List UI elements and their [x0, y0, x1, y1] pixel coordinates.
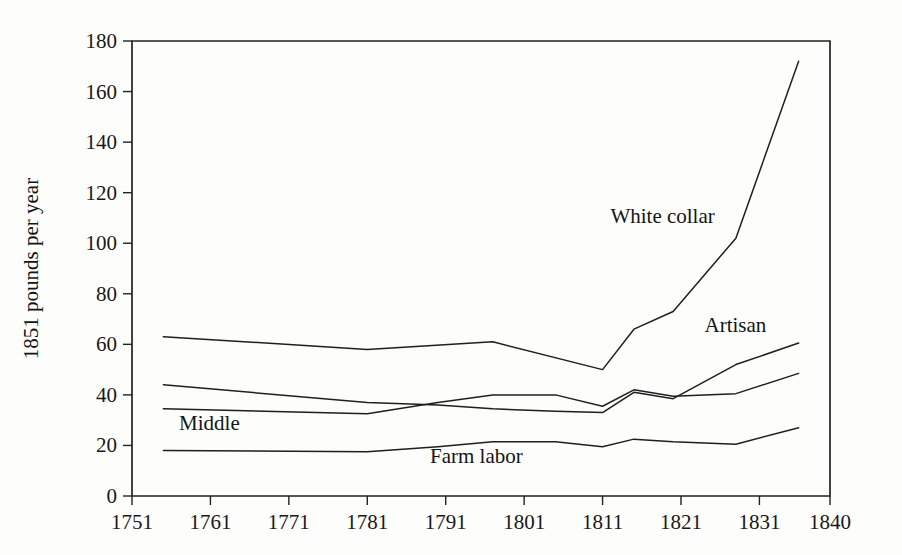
- x-tick-label-1840: 1840: [809, 510, 851, 534]
- series-label-artisan: Artisan: [705, 313, 767, 337]
- x-tick-label-1801: 1801: [503, 510, 545, 534]
- y-tick-label-20: 20: [96, 433, 117, 457]
- y-tick-label-80: 80: [96, 282, 117, 306]
- y-tick-label-120: 120: [86, 181, 118, 205]
- series-line-artisan: [163, 343, 798, 413]
- chart-series-lines: [163, 61, 798, 452]
- x-tick-label-1821: 1821: [660, 510, 702, 534]
- x-tick-label-1781: 1781: [346, 510, 388, 534]
- y-axis-title: 1851 pounds per year: [19, 178, 43, 359]
- series-label-farm-labor: Farm labor: [430, 444, 523, 468]
- chart-ticks: [123, 41, 830, 505]
- x-tick-label-1751: 1751: [111, 510, 153, 534]
- y-tick-label-180: 180: [86, 29, 118, 53]
- y-tick-label-60: 60: [96, 332, 117, 356]
- y-tick-label-100: 100: [86, 231, 118, 255]
- y-tick-label-160: 160: [86, 80, 118, 104]
- x-tick-label-1811: 1811: [582, 510, 623, 534]
- x-tick-label-1771: 1771: [268, 510, 310, 534]
- chart-series-labels: White collarArtisanMiddleFarm labor: [179, 204, 767, 468]
- line-chart: 0204060801001201401601801751176117711781…: [0, 0, 902, 555]
- x-tick-label-1761: 1761: [189, 510, 231, 534]
- series-label-middle: Middle: [179, 411, 240, 435]
- series-label-white-collar: White collar: [610, 204, 714, 228]
- y-axis-title-text: 1851 pounds per year: [19, 178, 43, 359]
- x-tick-label-1791: 1791: [425, 510, 467, 534]
- y-tick-label-140: 140: [86, 130, 118, 154]
- y-tick-label-40: 40: [96, 383, 117, 407]
- x-tick-label-1831: 1831: [738, 510, 780, 534]
- chart-page: 0204060801001201401601801751176117711781…: [0, 0, 902, 555]
- y-tick-label-0: 0: [107, 484, 118, 508]
